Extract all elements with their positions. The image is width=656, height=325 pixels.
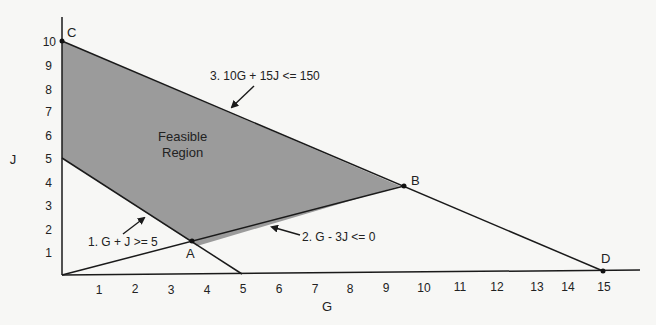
- x-tick: 13: [530, 280, 544, 294]
- x-axis: [62, 270, 640, 275]
- x-tick: 4: [204, 283, 211, 297]
- x-tick: 9: [383, 281, 390, 295]
- point-d-marker: [601, 269, 606, 274]
- x-tick: 3: [168, 283, 175, 297]
- x-tick: 14: [561, 280, 575, 294]
- point-b-label: B: [411, 173, 420, 188]
- x-tick: 10: [417, 281, 431, 295]
- point-a-label: A: [186, 246, 195, 261]
- region-label-line2: Region: [162, 145, 203, 160]
- constraint-1-label: 1. G + J >= 5: [88, 235, 158, 249]
- y-tick: 3: [45, 199, 52, 213]
- y-tick: 6: [45, 129, 52, 143]
- y-tick: 4: [45, 176, 52, 190]
- feasible-region-chart: C A B D Feasible Region 3. 10G + 15J <= …: [0, 0, 656, 325]
- y-tick: 5: [45, 152, 52, 166]
- y-axis-label: J: [10, 152, 17, 167]
- x-tick: 15: [597, 280, 611, 294]
- x-tick: 1: [96, 283, 103, 297]
- y-tick: 8: [45, 83, 52, 97]
- x-tick: 11: [454, 280, 467, 294]
- x-axis-label: G: [322, 299, 332, 314]
- point-b-marker: [402, 184, 407, 189]
- y-tick: 2: [45, 223, 52, 237]
- x-tick-labels: 1 2 3 4 5 6 7 8 9 10 11 12 13 14 15: [96, 280, 611, 297]
- x-tick: 12: [490, 280, 504, 294]
- arrow-icon: [232, 86, 254, 107]
- x-tick: 8: [347, 282, 354, 296]
- point-c-marker: [60, 39, 65, 44]
- x-tick: 7: [312, 282, 319, 296]
- constraint-2-label: 2. G - 3J <= 0: [302, 230, 376, 244]
- y-tick: 10: [43, 35, 57, 49]
- point-d-label: D: [601, 251, 610, 266]
- arrow-icon: [123, 218, 144, 234]
- y-tick: 7: [45, 105, 52, 119]
- x-tick: 6: [276, 282, 283, 296]
- constraint-3-label: 3. 10G + 15J <= 150: [210, 69, 320, 83]
- x-tick: 5: [240, 282, 247, 296]
- region-label-line1: Feasible: [158, 129, 207, 144]
- point-c-label: C: [67, 25, 76, 40]
- x-tick: 2: [132, 282, 139, 296]
- y-tick-labels: 10 9 8 7 6 5 4 3 2 1: [43, 35, 57, 260]
- point-a-marker: [190, 239, 195, 244]
- arrow-icon: [272, 227, 300, 235]
- y-tick: 1: [45, 246, 52, 260]
- y-tick: 9: [45, 59, 52, 73]
